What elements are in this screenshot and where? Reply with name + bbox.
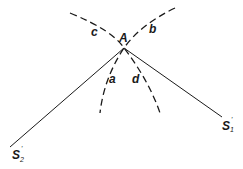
label-arc-d: d bbox=[132, 72, 140, 86]
label-s2-prime: ' bbox=[21, 145, 23, 152]
ray-s2 bbox=[10, 48, 124, 147]
label-arc-b: b bbox=[149, 22, 156, 36]
label-s2-subscript: 2 bbox=[19, 156, 24, 163]
label-arc-a: a bbox=[109, 72, 116, 86]
diagram-canvas: A c b a d S ' 1 S ' 2 bbox=[0, 0, 243, 169]
label-point-a: A bbox=[118, 31, 128, 45]
label-s1-base: S bbox=[222, 119, 230, 133]
label-s1-subscript: 1 bbox=[230, 126, 234, 133]
arc-b-a bbox=[100, 8, 175, 113]
label-s1: S ' 1 bbox=[222, 116, 234, 133]
label-s2-base: S bbox=[12, 148, 20, 162]
label-s2: S ' 2 bbox=[12, 145, 24, 163]
label-arc-c: c bbox=[91, 25, 98, 39]
label-s1-prime: ' bbox=[231, 116, 233, 123]
